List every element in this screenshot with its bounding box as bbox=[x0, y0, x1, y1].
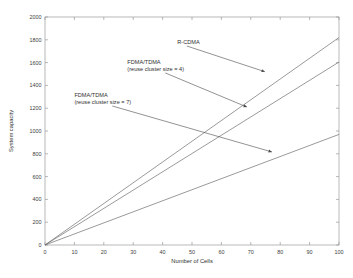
annotation-leader-0 bbox=[187, 46, 265, 72]
y-tick-label: 1200 bbox=[30, 105, 42, 111]
x-tick-label: 0 bbox=[44, 249, 47, 255]
y-tick-label: 1800 bbox=[30, 37, 42, 43]
y-tick-label: 800 bbox=[33, 151, 42, 157]
x-tick-label: 60 bbox=[218, 249, 224, 255]
y-tick-label: 200 bbox=[33, 219, 42, 225]
y-tick-label: 0 bbox=[39, 242, 42, 248]
x-tick-label: 20 bbox=[101, 249, 107, 255]
annotation-arrowhead-2 bbox=[268, 150, 272, 153]
y-tick-label: 2000 bbox=[30, 14, 42, 20]
annotation-label-2: FDMA/TDMA bbox=[74, 92, 108, 98]
annotation-label-1: FDMA/TDMA bbox=[127, 59, 161, 65]
annotations: R-CDMAFDMA/TDMA(reuse cluster size = 4)F… bbox=[74, 39, 272, 153]
series-line-1 bbox=[45, 62, 339, 245]
y-tick-label: 1600 bbox=[30, 60, 42, 66]
x-tick-label: 50 bbox=[189, 249, 195, 255]
y-tick-label: 1000 bbox=[30, 128, 42, 134]
x-axis-title: Number of Cells bbox=[171, 258, 213, 264]
y-axis-title: System capacity bbox=[8, 110, 14, 152]
data-series bbox=[45, 38, 339, 245]
plot-frame bbox=[45, 17, 339, 245]
x-tick-label: 10 bbox=[71, 249, 77, 255]
x-tick-label: 100 bbox=[335, 249, 344, 255]
y-tick-label: 1400 bbox=[30, 82, 42, 88]
annotation-sublabel-1: (reuse cluster size = 4) bbox=[127, 66, 184, 72]
y-tick-label: 600 bbox=[33, 174, 42, 180]
annotation-arrowhead-0 bbox=[261, 69, 265, 72]
x-tick-label: 40 bbox=[160, 249, 166, 255]
annotation-label-0: R-CDMA bbox=[177, 39, 200, 45]
x-tick-label: 80 bbox=[277, 249, 283, 255]
y-tick-label: 400 bbox=[33, 196, 42, 202]
series-line-2 bbox=[45, 134, 339, 245]
x-tick-label: 90 bbox=[307, 249, 313, 255]
annotation-sublabel-2: (reuse cluster size = 7) bbox=[74, 99, 131, 105]
chart-canvas: 0102030405060708090100020040060080010001… bbox=[0, 0, 353, 278]
chart-figure: 0102030405060708090100020040060080010001… bbox=[0, 0, 353, 278]
x-tick-label: 70 bbox=[248, 249, 254, 255]
x-tick-label: 30 bbox=[130, 249, 136, 255]
annotation-leader-2 bbox=[112, 106, 272, 152]
axes: 0102030405060708090100020040060080010001… bbox=[30, 14, 344, 255]
series-line-0 bbox=[45, 38, 339, 245]
annotation-leader-1 bbox=[165, 73, 247, 107]
